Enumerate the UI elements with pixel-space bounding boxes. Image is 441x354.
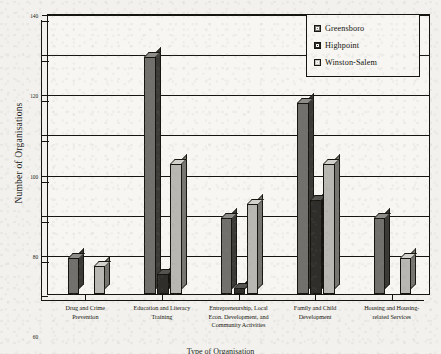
bar-front-face — [157, 274, 169, 294]
x-axis-tick — [85, 295, 86, 301]
bar-side-face — [156, 47, 161, 289]
x-axis-category-label: Family and ChildDevelopment — [273, 304, 358, 321]
y-axis-title: Number of Organisations — [14, 73, 24, 233]
bar-front-face — [374, 218, 386, 294]
x-axis-tick — [392, 295, 393, 301]
x-axis-category-line: Family and Child — [273, 304, 358, 313]
bar-greensboro[interactable] — [68, 258, 80, 294]
legend-item-greensboro[interactable]: Greensboro — [314, 20, 419, 37]
y-axis-tick-label: 100 — [30, 174, 38, 180]
x-axis: Drug and CrimePreventionEducation and Li… — [47, 295, 430, 354]
bar-winston-salem[interactable] — [323, 164, 335, 294]
bar-winston-salem[interactable] — [170, 164, 182, 294]
bar-winston-salem[interactable] — [94, 266, 106, 294]
bar-front-face — [68, 258, 80, 294]
bar-side-face — [258, 194, 263, 289]
bar-front-face — [170, 164, 182, 294]
bar-side-face — [232, 208, 237, 289]
legend-item-highpoint[interactable]: Highpoint — [314, 37, 419, 54]
y-axis-tick-label: 140 — [30, 13, 38, 19]
bar-side-face — [182, 154, 187, 289]
bar-winston-salem[interactable] — [400, 258, 412, 294]
x-axis-category-line: Drug and Crime — [43, 304, 128, 313]
y-axis-tick-label: 120 — [30, 93, 38, 99]
bar-group — [201, 15, 278, 294]
legend-label: Greensboro — [325, 24, 364, 33]
x-axis-category-label: Housing and Housing-related Services — [349, 304, 434, 321]
x-axis-tick — [239, 295, 240, 301]
chart-legend: Greensboro Highpoint Winston-Salem — [306, 14, 420, 77]
bar-side-face — [385, 208, 390, 289]
bar-greensboro[interactable] — [144, 57, 156, 294]
bar-group — [125, 15, 202, 294]
x-axis-category-line: Training — [120, 313, 205, 322]
x-axis-category-line: Housing and Housing- — [349, 304, 434, 313]
bar-greensboro[interactable] — [221, 218, 233, 294]
bar-front-face — [94, 266, 106, 294]
bar-front-face — [323, 164, 335, 294]
bar-highpoint[interactable] — [234, 288, 246, 294]
bar-greensboro[interactable] — [297, 103, 309, 294]
legend-swatch-icon — [314, 59, 321, 66]
bar-front-face — [234, 288, 246, 294]
x-axis-category-line: Econ. Development, and — [196, 313, 281, 322]
bar-chart-figure: Number of Organisations 0204060801001201… — [0, 0, 441, 354]
x-axis-category-line: Development — [273, 313, 358, 322]
x-axis-tick — [315, 295, 316, 301]
bar-highpoint[interactable] — [157, 274, 169, 294]
bar-highpoint[interactable] — [310, 200, 322, 294]
legend-swatch-icon — [314, 42, 321, 49]
x-axis-category-line: Prevention — [43, 313, 128, 322]
x-axis-title: Type of Organisation — [0, 347, 441, 354]
x-axis-tick — [162, 295, 163, 301]
legend-label: Highpoint — [325, 41, 359, 50]
bar-front-face — [221, 218, 233, 294]
bar-front-face — [144, 57, 156, 294]
legend-swatch-icon — [314, 25, 321, 32]
x-axis-category-line: Community Activities — [196, 321, 281, 330]
legend-label: Winston-Salem — [325, 58, 377, 67]
x-axis-category-line: related Services — [349, 313, 434, 322]
x-axis-category-label: Drug and CrimePrevention — [43, 304, 128, 321]
bar-front-face — [247, 204, 259, 294]
bar-front-face — [400, 258, 412, 294]
bar-group — [48, 15, 125, 294]
bar-front-face — [310, 200, 322, 294]
y-axis-tick-label: 60 — [33, 334, 38, 340]
legend-item-winston-salem[interactable]: Winston-Salem — [314, 54, 419, 71]
bar-greensboro[interactable] — [374, 218, 386, 294]
x-axis-category-label: Education and LiteracyTraining — [120, 304, 205, 321]
x-axis-category-line: Entrepreneurship, Local — [196, 304, 281, 313]
x-axis-category-label: Entrepreneurship, LocalEcon. Development… — [196, 304, 281, 330]
bar-side-face — [335, 154, 340, 289]
x-axis-category-line: Education and Literacy — [120, 304, 205, 313]
bar-front-face — [297, 103, 309, 294]
y-axis-tick-label: 80 — [33, 254, 38, 260]
bar-winston-salem[interactable] — [247, 204, 259, 294]
